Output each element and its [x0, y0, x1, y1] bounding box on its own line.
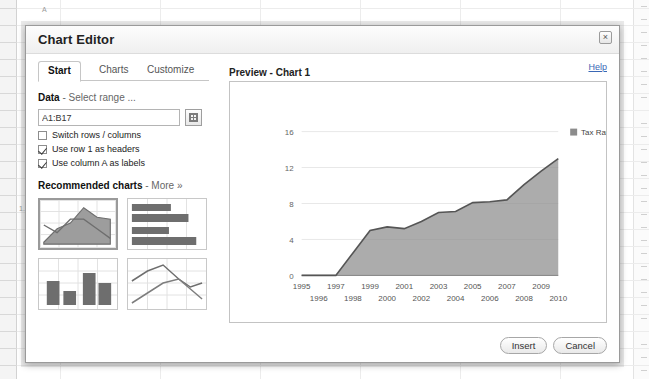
preview-header: Preview - Chart 1 Help [229, 62, 607, 77]
range-row [38, 109, 209, 126]
column-chart-thumb[interactable] [38, 258, 118, 310]
grid-line [17, 365, 649, 366]
dialog-title: Chart Editor [38, 32, 114, 47]
y-axis-tick-label: 4 [289, 236, 294, 245]
more-link[interactable]: - More » [145, 180, 182, 191]
grid-line [17, 8, 649, 9]
data-sublabel: - Select range ... [62, 92, 135, 103]
row-header-strip [0, 0, 17, 379]
checkbox-label-labels: Use column A as labels [52, 158, 145, 168]
tab-bar: Start Charts Customize [38, 61, 209, 81]
x-axis-tick-label: 1998 [344, 294, 362, 303]
checkbox-label-switch: Switch rows / columns [52, 130, 141, 140]
preview-title: Preview - Chart 1 [229, 67, 310, 78]
x-axis-tick-label: 2010 [549, 294, 567, 303]
y-axis-tick-label: 0 [289, 272, 294, 281]
insert-button[interactable]: Insert [500, 337, 548, 354]
y-axis-tick-label: 16 [285, 128, 294, 137]
chart-preview-frame[interactable]: 0481216199519961997199819992000200120022… [229, 81, 607, 323]
tab-start[interactable]: Start [38, 61, 81, 82]
x-axis-tick-label: 2004 [447, 294, 465, 303]
right-ruler-strip [633, 0, 649, 379]
area-chart-thumb[interactable] [38, 198, 118, 250]
x-axis-tick-label: 2000 [378, 294, 396, 303]
x-axis-tick-label: 2002 [413, 294, 431, 303]
x-axis-tick-label: 1997 [327, 282, 345, 291]
checkbox-label-headers: Use row 1 as headers [52, 144, 140, 154]
x-axis-tick-label: 2006 [481, 294, 499, 303]
line-chart-thumb[interactable] [127, 258, 207, 310]
dialog-footer: Insert Cancel [500, 337, 607, 354]
checkbox-row-1-headers[interactable]: Use row 1 as headers [38, 144, 209, 154]
recommended-charts-title: Recommended charts - More » [38, 180, 209, 191]
checkbox-box-labels[interactable] [38, 159, 47, 168]
grid-icon[interactable] [185, 109, 202, 126]
checkbox-box-headers[interactable] [38, 145, 47, 154]
preview-panel: Preview - Chart 1 Help 04812161995199619… [219, 55, 619, 362]
sheet-cell-text: 1. [19, 205, 25, 212]
x-axis-tick-label: 2005 [464, 282, 482, 291]
legend-swatch [570, 129, 577, 136]
x-axis-tick-label: 1996 [310, 294, 328, 303]
area-chart: 0481216199519961997199819992000200120022… [230, 82, 606, 322]
x-axis-tick-label: 2003 [430, 282, 448, 291]
checkbox-box-switch[interactable] [38, 131, 47, 140]
y-axis-tick-label: 8 [289, 200, 294, 209]
x-axis-tick-label: 2001 [395, 282, 413, 291]
data-section-title: Data - Select range ... [38, 92, 209, 103]
recommended-thumbnails [38, 198, 209, 310]
range-input[interactable] [38, 109, 180, 126]
checkbox-column-a-labels[interactable]: Use column A as labels [38, 158, 209, 168]
x-axis-tick-label: 2007 [498, 282, 516, 291]
sheet-cell-text: A [42, 6, 47, 13]
data-label: Data [38, 92, 60, 103]
x-axis-tick-label: 2008 [515, 294, 533, 303]
y-axis-tick-label: 12 [285, 164, 294, 173]
x-axis-tick-label: 1995 [293, 282, 311, 291]
bar-chart-thumb[interactable] [127, 198, 207, 250]
help-link[interactable]: Help [588, 62, 607, 72]
recommended-label: Recommended charts [38, 180, 142, 191]
tab-charts[interactable]: Charts [90, 61, 137, 81]
tab-customize[interactable]: Customize [138, 61, 203, 81]
x-axis-tick-label: 1999 [361, 282, 379, 291]
close-icon[interactable]: × [599, 31, 612, 44]
chart-editor-dialog: Chart Editor × Start Charts Customize Da… [25, 25, 620, 363]
x-axis-tick-label: 2009 [532, 282, 550, 291]
checkbox-switch-rows-columns[interactable]: Switch rows / columns [38, 130, 209, 140]
cancel-button[interactable]: Cancel [553, 337, 607, 354]
left-panel: Start Charts Customize Data - Select ran… [26, 55, 219, 362]
dialog-titlebar: Chart Editor × [26, 26, 619, 54]
legend-label: Tax Rate [581, 128, 606, 137]
